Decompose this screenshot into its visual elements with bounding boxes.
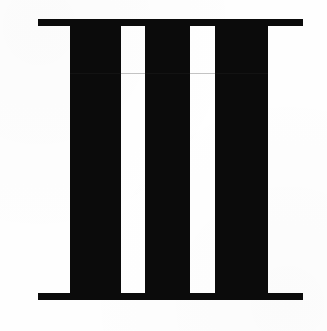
pillar-right <box>215 19 268 300</box>
pillar-left <box>70 19 121 300</box>
gap-right <box>190 26 215 293</box>
scan-seam-artifact <box>70 73 268 74</box>
three-pillar-glyph-icon <box>0 0 327 331</box>
gap-left <box>121 26 145 293</box>
figure-canvas <box>0 0 327 331</box>
pillar-center <box>145 19 190 300</box>
glyph-layer <box>0 0 327 331</box>
